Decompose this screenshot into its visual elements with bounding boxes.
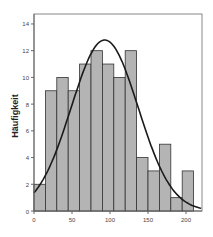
histogram-chart: 02468101214 050100150200 Häufigkeit (0, 0, 213, 237)
x-axis: 050100150200 (32, 211, 202, 223)
histogram-bar (34, 184, 45, 211)
histogram-bar (171, 198, 182, 211)
y-axis-label: Häufigkeit (10, 94, 20, 138)
x-tick-label: 0 (32, 217, 36, 223)
histogram-bar (68, 91, 79, 211)
y-tick-label: 6 (26, 128, 30, 134)
y-tick-label: 4 (26, 155, 30, 161)
histogram-bar (148, 171, 159, 211)
x-tick-label: 200 (181, 217, 192, 223)
y-tick-label: 10 (22, 75, 29, 81)
x-tick-label: 100 (105, 217, 116, 223)
histogram-bar (80, 64, 91, 211)
histogram-bar (91, 51, 102, 211)
y-axis: 02468101214 (22, 14, 34, 215)
x-tick-label: 150 (143, 217, 154, 223)
histogram-bar (137, 158, 148, 211)
histogram-bar (102, 64, 113, 211)
y-tick-label: 0 (26, 209, 30, 215)
y-tick-label: 8 (26, 102, 30, 108)
histogram-bar (114, 77, 125, 211)
y-tick-label: 12 (22, 48, 29, 54)
y-tick-label: 14 (22, 21, 29, 27)
histogram-bar (45, 91, 56, 211)
x-tick-label: 50 (69, 217, 76, 223)
y-tick-label: 2 (26, 182, 30, 188)
